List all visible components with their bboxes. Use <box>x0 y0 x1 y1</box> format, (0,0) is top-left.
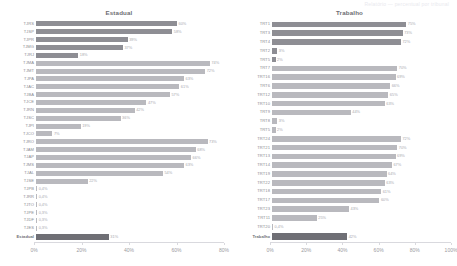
bar-row: TJPI19% <box>0 122 224 130</box>
bar <box>272 198 379 204</box>
bar <box>272 206 349 212</box>
bar-category-label: TJPI <box>0 124 36 128</box>
bar-value-label: 66% <box>392 84 400 88</box>
total-bar <box>36 234 109 240</box>
bar-value-label: 43% <box>350 207 358 211</box>
bar-category-label: TJTO <box>0 203 36 207</box>
axis-tick-mark <box>129 243 130 245</box>
bar <box>36 29 172 34</box>
axis-tick-mark <box>451 243 452 245</box>
bar-track: 2% <box>272 55 451 64</box>
bar-value-label: 69% <box>397 75 405 79</box>
bar-row: TJPE0,3% <box>0 209 224 217</box>
bar-category-label: TJMT <box>0 69 36 73</box>
bar-row: TRT472% <box>228 38 451 47</box>
bar-track: 69% <box>272 73 451 82</box>
bar <box>36 61 210 66</box>
bar <box>272 92 388 98</box>
bar-category-label: TJCO <box>0 132 36 136</box>
bar-value-label: 57% <box>171 93 179 97</box>
bar-track: 22% <box>36 177 224 185</box>
bar-category-label: TRT3 <box>228 31 272 35</box>
bar-track: 63% <box>36 75 224 83</box>
bar-row: TRT2343% <box>228 205 451 214</box>
bar-category-label: TJRS <box>0 22 36 26</box>
bar-row: TJPA63% <box>0 75 224 83</box>
bar-track: 72% <box>272 38 451 47</box>
bar-value-label: 63% <box>386 181 394 185</box>
bar-value-label: 0,4% <box>39 203 48 207</box>
bar-category-label: TRT19 <box>228 172 272 176</box>
bar-value-label: 60% <box>381 198 389 202</box>
axis-tick-label: 40% <box>124 247 134 253</box>
bar <box>36 202 37 207</box>
bar-value-label: 7% <box>54 132 60 136</box>
axis-tick-label: 20% <box>301 247 311 253</box>
bar <box>272 145 397 151</box>
bar <box>36 37 128 42</box>
bar-value-label: 0,4% <box>39 187 48 191</box>
bar-value-label: 74% <box>211 61 219 65</box>
panel-estadual-axis: 0%20%40%60%80% <box>0 242 224 266</box>
bar-track: 70% <box>272 64 451 73</box>
bar-category-label: TRT23 <box>228 207 272 211</box>
bar-row: TJMA74% <box>0 59 224 67</box>
bar-row: TRT175% <box>228 20 451 29</box>
bar-value-label: 0,3% <box>39 211 48 215</box>
bar <box>272 83 390 89</box>
bar-category-label: TRT17 <box>228 198 272 202</box>
bar-track: 2% <box>272 126 451 135</box>
bar-category-label: TRT16 <box>228 75 272 79</box>
bar-row: TRT1669% <box>228 73 451 82</box>
bar <box>36 186 37 191</box>
bar-row: TJMS63% <box>0 161 224 169</box>
bar-category-label: TJAM <box>0 148 36 152</box>
bar <box>272 136 401 142</box>
bar-row-total: Estadual31% <box>0 232 224 242</box>
bar <box>272 66 397 72</box>
bar-value-label: 47% <box>148 101 156 105</box>
bar <box>36 124 81 129</box>
bar-category-label: TJRR <box>0 195 36 199</box>
bar-track: 3% <box>272 46 451 55</box>
bar-track: 0,4% <box>36 193 224 201</box>
bar <box>36 108 135 113</box>
bar <box>36 92 170 97</box>
bar-category-label: TJMA <box>0 61 36 65</box>
axis-tick-label: 80% <box>410 247 420 253</box>
bar <box>36 53 78 58</box>
bar-value-label: 44% <box>352 110 360 114</box>
bar-track: 70% <box>272 143 451 152</box>
bar-value-label: 72% <box>402 137 410 141</box>
axis-tick-label: 60% <box>171 247 181 253</box>
bar-value-label: 19% <box>82 124 90 128</box>
axis-tick-label: 100% <box>445 247 457 253</box>
bar-category-label: TJBA <box>0 93 36 97</box>
panel-trabalho-axis: 0%20%40%60%80%100% <box>228 242 451 266</box>
bar-track: 0,3% <box>36 216 224 224</box>
axis-tick-mark <box>224 243 225 245</box>
total-bar-track: 31% <box>36 232 224 242</box>
bar-row: TRT23% <box>228 46 451 55</box>
bar <box>272 74 396 80</box>
bar-value-label: 39% <box>129 38 137 42</box>
bar <box>272 189 381 195</box>
axis-tick-mark <box>342 243 343 245</box>
bar-row: TJBA57% <box>0 91 224 99</box>
bar-track: 72% <box>36 67 224 75</box>
total-category-label: Trabalho <box>228 235 272 239</box>
axis-tick-mark <box>306 243 307 245</box>
bar-track: 39% <box>36 36 224 44</box>
bar-row: TRT1125% <box>228 214 451 223</box>
bar-track: 61% <box>36 83 224 91</box>
bar-track: 57% <box>36 91 224 99</box>
bar-row: TRT770% <box>228 64 451 73</box>
bar-row: TRT1467% <box>228 161 451 170</box>
bar-value-label: 63% <box>386 102 394 106</box>
bar-row: TJAC61% <box>0 83 224 91</box>
bar-track: 0,3% <box>36 224 224 232</box>
bar-category-label: TRT9 <box>228 110 272 114</box>
bar-track: 19% <box>36 122 224 130</box>
bar-category-label: TJES <box>0 226 36 230</box>
bar-value-label: 66% <box>193 156 201 160</box>
